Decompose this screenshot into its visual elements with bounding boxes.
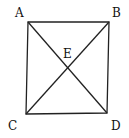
- label-a: A: [14, 6, 24, 20]
- label-d: D: [111, 119, 121, 133]
- label-b: B: [112, 6, 121, 20]
- label-c: C: [8, 119, 17, 133]
- square-diagram: A B C D E: [0, 0, 129, 138]
- label-e: E: [63, 47, 72, 61]
